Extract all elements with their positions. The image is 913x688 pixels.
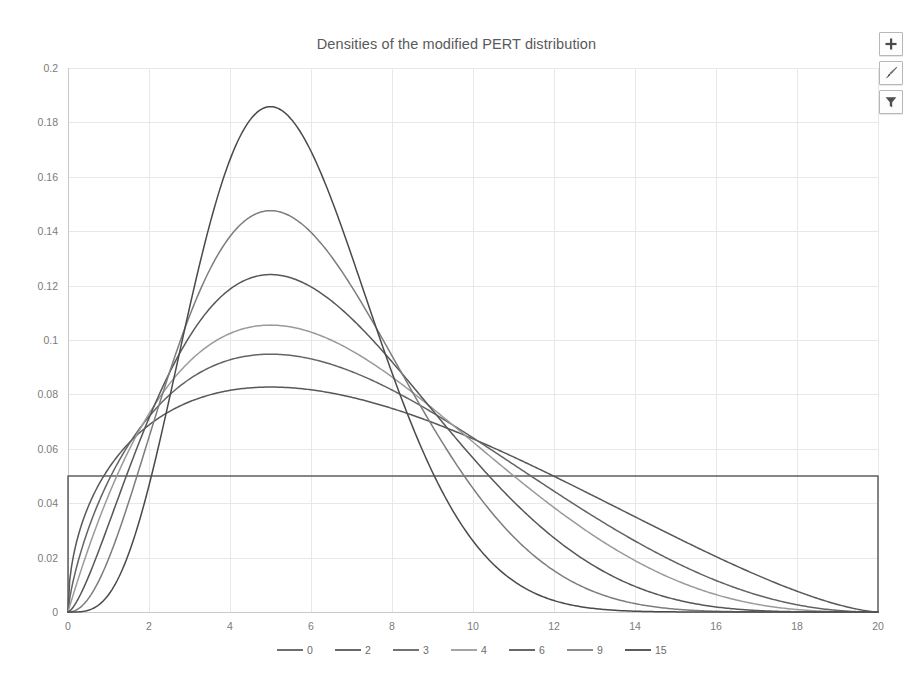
x-tick-label: 8 <box>389 620 395 632</box>
y-tick-label: 0.08 <box>38 388 59 400</box>
y-tick-label: 0.18 <box>38 116 59 128</box>
legend-label: 3 <box>423 644 429 656</box>
y-tick-label: 0 <box>52 606 58 618</box>
y-axis-tick-labels: 00.020.040.060.080.10.120.140.160.180.2 <box>38 62 59 618</box>
y-tick-label: 0.2 <box>43 62 58 74</box>
chart-container[interactable]: Densities of the modified PERT distribut… <box>0 0 913 688</box>
x-tick-label: 16 <box>710 620 722 632</box>
x-tick-label: 12 <box>548 620 560 632</box>
x-tick-label: 10 <box>467 620 479 632</box>
plus-icon <box>884 37 898 51</box>
legend-label: 4 <box>481 644 487 656</box>
legend-label: 9 <box>597 644 603 656</box>
x-tick-label: 2 <box>146 620 152 632</box>
legend-item-15[interactable]: 15 <box>625 644 667 656</box>
x-tick-label: 18 <box>791 620 803 632</box>
legend-label: 0 <box>307 644 313 656</box>
x-tick-label: 4 <box>227 620 233 632</box>
legend-label: 2 <box>365 644 371 656</box>
y-tick-label: 0.1 <box>43 334 58 346</box>
x-tick-label: 0 <box>65 620 71 632</box>
y-tick-label: 0.14 <box>38 225 59 237</box>
gridlines <box>68 68 879 613</box>
legend-item-4[interactable]: 4 <box>451 644 487 656</box>
chart-legend[interactable]: 02346915 <box>277 644 667 656</box>
chart-filters-button[interactable] <box>879 90 903 114</box>
x-tick-label: 6 <box>308 620 314 632</box>
x-tick-label: 20 <box>872 620 884 632</box>
chart-side-buttons[interactable] <box>879 32 905 114</box>
legend-label: 6 <box>539 644 545 656</box>
legend-item-2[interactable]: 2 <box>335 644 371 656</box>
chart-elements-button[interactable] <box>879 32 903 56</box>
legend-item-6[interactable]: 6 <box>509 644 545 656</box>
x-axis-tick-labels: 02468101214161820 <box>65 620 884 632</box>
y-tick-label: 0.04 <box>38 497 59 509</box>
legend-item-0[interactable]: 0 <box>277 644 313 656</box>
paintbrush-icon <box>883 65 899 81</box>
legend-item-9[interactable]: 9 <box>567 644 603 656</box>
y-tick-label: 0.16 <box>38 171 59 183</box>
legend-item-3[interactable]: 3 <box>393 644 429 656</box>
y-tick-label: 0.06 <box>38 443 59 455</box>
funnel-icon <box>884 95 898 109</box>
x-tick-label: 14 <box>629 620 641 632</box>
chart-plot-area[interactable]: 00.020.040.060.080.10.120.140.160.180.2 … <box>0 0 913 688</box>
chart-styles-button[interactable] <box>879 61 903 85</box>
legend-label: 15 <box>655 644 667 656</box>
y-tick-label: 0.12 <box>38 280 59 292</box>
y-tick-label: 0.02 <box>38 552 59 564</box>
